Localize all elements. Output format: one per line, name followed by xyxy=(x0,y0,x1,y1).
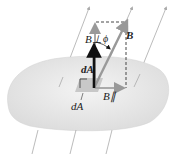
dA-label: dA xyxy=(71,101,83,112)
diagram-graphics xyxy=(0,0,173,154)
dA-vector-label: dA xyxy=(81,64,94,75)
b-vector-label: B xyxy=(126,30,133,41)
phi-label: ϕ xyxy=(103,34,108,44)
b-perp-label: B⊥ xyxy=(85,34,102,45)
b-parallel-label: B∥ xyxy=(103,91,116,102)
flux-diagram: B⊥ ϕ B dA dA B∥ xyxy=(0,0,173,154)
